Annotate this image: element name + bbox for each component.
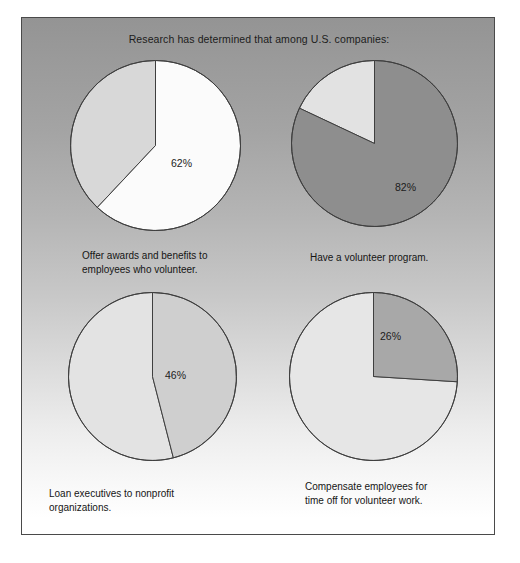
pie-chart-compensate-employees: 26% Compensate employees for time off fo… xyxy=(288,291,459,462)
pie-chart-loan-executives: 46% Loan executives to nonprofit organiz… xyxy=(67,291,238,462)
pie-caption: Loan executives to nonprofit organizatio… xyxy=(49,487,238,515)
pie-svg-2 xyxy=(290,59,459,228)
pie-value-label: 82% xyxy=(395,181,416,193)
pie-value-label: 46% xyxy=(165,369,186,381)
pie-chart-offer-awards: 62% Offer awards and benefits to employe… xyxy=(69,59,242,232)
pie-svg-3 xyxy=(67,291,238,462)
pie-value-label: 62% xyxy=(171,157,192,169)
figure-title: Research has determined that among U.S. … xyxy=(22,33,496,45)
pie-svg-4 xyxy=(288,291,459,462)
pie-chart-volunteer-program: 82% Have a volunteer program. xyxy=(290,59,459,228)
pie-graphic-wrap: 46% xyxy=(67,291,238,462)
pie-caption: Offer awards and benefits to employees w… xyxy=(82,249,207,277)
figure-root: Research has determined that among U.S. … xyxy=(0,0,520,563)
pie-graphic-wrap: 62% xyxy=(69,59,242,232)
pie-value-label: 26% xyxy=(380,330,401,342)
pie-graphic-wrap: 26% xyxy=(288,291,459,462)
pie-svg-1 xyxy=(69,59,242,232)
figure-panel: Research has determined that among U.S. … xyxy=(21,17,495,535)
pie-caption: Have a volunteer program. xyxy=(310,251,428,265)
pie-caption: Compensate employees for time off for vo… xyxy=(305,480,427,508)
pie-graphic-wrap: 82% xyxy=(290,59,459,228)
